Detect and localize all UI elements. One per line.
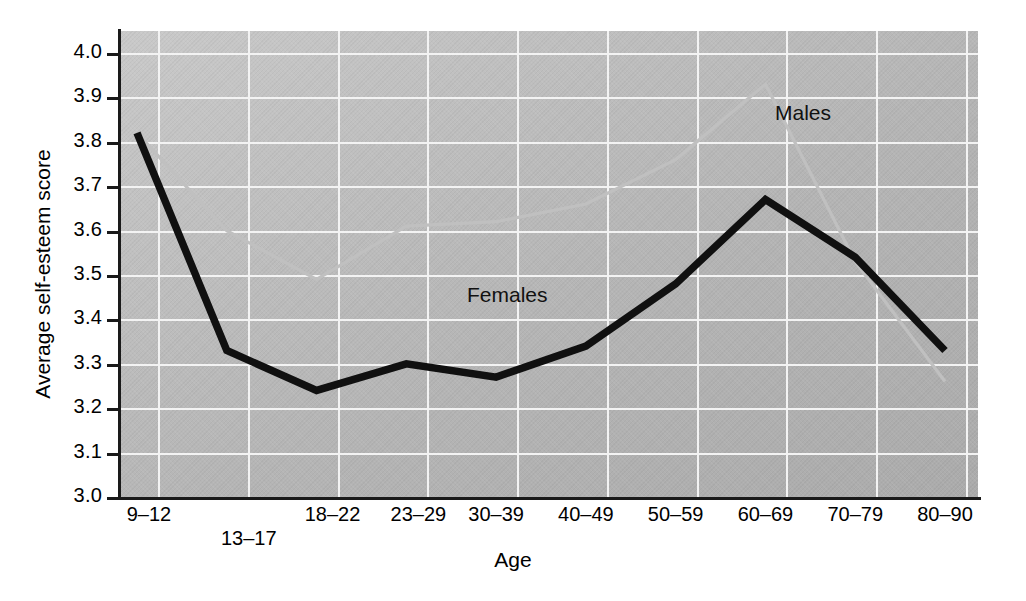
gridline-vertical <box>158 31 160 497</box>
y-axis-tick-label: 3.0 <box>42 484 102 507</box>
y-axis-tick <box>107 275 119 278</box>
y-axis-tick <box>107 97 119 100</box>
x-axis-title: Age <box>0 548 1026 572</box>
x-axis-line <box>118 497 981 500</box>
x-axis-tick-label: 18–22 <box>305 503 361 526</box>
y-axis-tick <box>107 408 119 411</box>
chart-figure: 3.03.13.23.33.43.53.63.73.83.94.0 9–1213… <box>0 0 1026 601</box>
x-axis-tick-label: 9–12 <box>127 503 172 526</box>
gridline-vertical <box>517 31 519 497</box>
x-axis-tick-label: 40–49 <box>558 503 614 526</box>
plot-area <box>121 31 978 497</box>
y-axis-tick <box>107 142 119 145</box>
x-axis-tick-label: 50–59 <box>648 503 704 526</box>
x-axis-tick-label: 60–69 <box>738 503 794 526</box>
gridline-vertical <box>427 31 429 497</box>
y-axis-tick <box>107 497 119 500</box>
gridline-vertical <box>697 31 699 497</box>
y-axis-tick-label: 4.0 <box>42 40 102 63</box>
y-axis-tick <box>107 364 119 367</box>
gridline-vertical <box>876 31 878 497</box>
x-axis-tick-label: 30–39 <box>468 503 524 526</box>
y-axis-title: Average self-esteem score <box>31 64 55 484</box>
y-axis-tick <box>107 231 119 234</box>
series-label-females: Females <box>467 283 548 307</box>
y-axis-tick <box>107 319 119 322</box>
x-axis-tick-label: 80–90 <box>917 503 973 526</box>
gridline-vertical <box>607 31 609 497</box>
series-label-males: Males <box>775 101 831 125</box>
x-axis-tick-label: 70–79 <box>827 503 883 526</box>
y-axis-tick <box>107 53 119 56</box>
gridline-vertical <box>338 31 340 497</box>
y-axis-tick <box>107 186 119 189</box>
gridline-vertical <box>248 31 250 497</box>
y-axis-tick <box>107 453 119 456</box>
gridline-vertical <box>966 31 968 497</box>
x-axis-tick-label: 23–29 <box>391 503 447 526</box>
x-axis-tick-label: 13–17 <box>221 527 277 550</box>
